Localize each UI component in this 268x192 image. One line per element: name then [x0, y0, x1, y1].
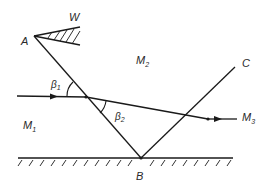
angle-arc-beta2	[100, 101, 106, 113]
label-m2: M2	[136, 54, 149, 68]
ground-surface	[18, 158, 233, 166]
label-m3: M3	[242, 111, 255, 125]
intersection-point	[84, 95, 87, 98]
angle-arc-beta1	[67, 82, 73, 96]
wedge-w	[34, 27, 80, 45]
diagram-canvas: W A B C M1 M2 M3 β1 β2	[0, 0, 268, 192]
label-beta1: β1	[50, 79, 61, 91]
arrow-icon	[214, 116, 222, 122]
label-c: C	[242, 57, 250, 69]
label-b: B	[136, 170, 143, 182]
point-b-dot	[139, 156, 142, 159]
label-m1: M1	[23, 119, 36, 133]
label-beta2: β2	[114, 111, 125, 123]
line-bc	[141, 67, 235, 158]
label-w: W	[69, 11, 81, 23]
label-a: A	[20, 35, 28, 47]
arrow-icon	[50, 94, 58, 100]
